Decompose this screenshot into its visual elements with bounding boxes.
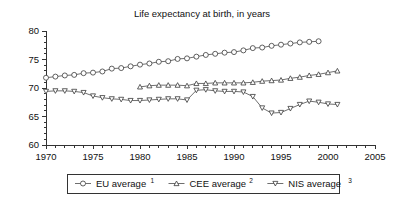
marker-triangle-up — [335, 68, 340, 73]
x-tick-label: 1990 — [223, 151, 244, 162]
chart-legend: EU average1CEE average2NIS average3 — [67, 174, 352, 193]
series-cee-average — [138, 68, 340, 89]
series-nis-average — [44, 88, 340, 116]
legend-superscript: 3 — [348, 177, 352, 184]
marker-circle — [62, 73, 67, 78]
y-tick-label: 80 — [28, 25, 39, 36]
x-tick-label: 1995 — [270, 151, 291, 162]
marker-circle — [138, 62, 143, 67]
x-tick-label: 1975 — [82, 151, 103, 162]
marker-triangle-down — [297, 102, 302, 107]
chart-title-group: Life expectancy at birth, in years — [134, 8, 270, 19]
marker-circle — [100, 69, 105, 74]
x-tick-label: 2005 — [364, 151, 385, 162]
marker-circle — [222, 50, 227, 55]
x-tick-label: 1980 — [129, 151, 150, 162]
y-tick-label: 65 — [28, 111, 39, 122]
marker-circle — [269, 43, 274, 48]
marker-circle — [166, 59, 171, 64]
marker-circle — [175, 56, 180, 61]
marker-circle — [53, 74, 58, 79]
marker-circle — [119, 66, 124, 71]
marker-circle — [316, 39, 321, 44]
line-chart: Life expectancy at birth, in years 60657… — [0, 0, 405, 205]
marker-circle — [307, 39, 312, 44]
marker-circle — [156, 59, 161, 64]
marker-circle — [279, 42, 284, 47]
marker-circle — [241, 48, 246, 53]
marker-circle — [250, 46, 255, 51]
marker-circle — [213, 51, 218, 56]
legend-superscript: 1 — [151, 177, 155, 184]
marker-triangle-down — [260, 106, 265, 111]
marker-circle — [260, 45, 265, 50]
marker-circle — [44, 75, 49, 80]
y-tick-label: 70 — [28, 82, 39, 93]
marker-circle — [147, 61, 152, 66]
marker-circle — [81, 71, 86, 76]
chart-container: Life expectancy at birth, in years 60657… — [0, 0, 405, 205]
x-axis: 19701975198019851990199520002005 — [35, 145, 385, 162]
marker-circle — [81, 181, 86, 186]
series-eu-average — [44, 39, 322, 80]
marker-circle — [288, 41, 293, 46]
x-tick-label: 1985 — [176, 151, 197, 162]
legend-label: EU average — [96, 178, 146, 189]
series-line — [46, 41, 319, 77]
chart-title: Life expectancy at birth, in years — [134, 8, 270, 19]
marker-circle — [72, 72, 77, 77]
marker-triangle-down — [288, 106, 293, 111]
x-tick-label: 1970 — [35, 151, 56, 162]
marker-circle — [194, 54, 199, 59]
marker-circle — [128, 64, 133, 69]
marker-circle — [232, 50, 237, 55]
series-line — [46, 90, 337, 113]
marker-circle — [109, 66, 114, 71]
legend-label: NIS average — [288, 178, 341, 189]
series-layer — [44, 39, 340, 116]
marker-circle — [297, 40, 302, 45]
legend-superscript: 2 — [249, 177, 253, 184]
x-tick-label: 2000 — [317, 151, 338, 162]
y-tick-label: 60 — [28, 139, 39, 150]
y-axis: 6065707580 — [28, 25, 46, 150]
marker-circle — [203, 52, 208, 57]
y-tick-label: 75 — [28, 54, 39, 65]
marker-circle — [185, 56, 190, 61]
marker-circle — [91, 70, 96, 75]
legend-label: CEE average — [190, 178, 247, 189]
